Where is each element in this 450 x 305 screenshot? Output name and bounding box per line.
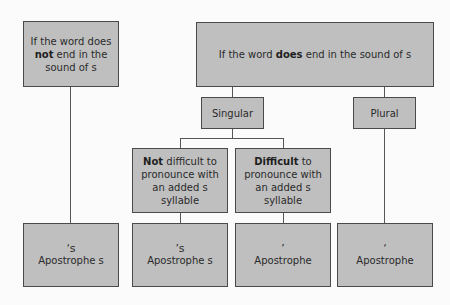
- apostrophe-symbol: ‘: [356, 244, 413, 254]
- node-word-not-end-in-s: If the word does not end in the sound of…: [23, 21, 119, 87]
- result-label: Apostrophe s: [147, 255, 213, 266]
- node-text: If the word does end in the sound of s: [219, 48, 411, 61]
- apostrophe-s-symbol: ‘s: [38, 244, 104, 254]
- result-apostrophe-s-1: ‘s Apostrophe s: [23, 223, 119, 287]
- result-label: Apostrophe s: [38, 255, 104, 266]
- node-not-difficult: Not difficult to pronounce with an added…: [132, 148, 228, 213]
- connector-not-end-to-result-1: [70, 86, 71, 223]
- node-label: Singular: [212, 107, 253, 120]
- result-apostrophe-s-2: ’s Apostrophe s: [132, 223, 228, 287]
- node-label: Plural: [370, 107, 398, 120]
- node-singular: Singular: [201, 97, 264, 129]
- connector-difficult-to-result-3: [283, 212, 284, 223]
- connector-plural-to-result-4: [384, 128, 385, 223]
- node-word-does-end-in-s: If the word does end in the sound of s: [196, 22, 434, 87]
- connector-singular-split: [180, 138, 284, 139]
- result-label: Apostrophe: [356, 255, 413, 266]
- connector-does-end-to-singular: [232, 86, 233, 97]
- apostrophe-symbol: ’: [254, 244, 311, 254]
- result-label: Apostrophe: [254, 255, 311, 266]
- connector-not-difficult-to-result-2: [180, 212, 181, 223]
- result-apostrophe-4: ‘ Apostrophe: [337, 223, 433, 287]
- node-text: Difficult to pronounce with an added s s…: [240, 155, 326, 207]
- connector-singular-down: [232, 128, 233, 138]
- node-text: If the word does not end in the sound of…: [28, 35, 114, 74]
- connector-does-end-to-plural: [384, 86, 385, 97]
- result-apostrophe-3: ’ Apostrophe: [235, 223, 331, 287]
- node-difficult: Difficult to pronounce with an added s s…: [235, 148, 331, 213]
- node-text: Not difficult to pronounce with an added…: [137, 155, 223, 207]
- apostrophe-s-symbol: ’s: [147, 244, 213, 254]
- node-plural: Plural: [353, 97, 416, 129]
